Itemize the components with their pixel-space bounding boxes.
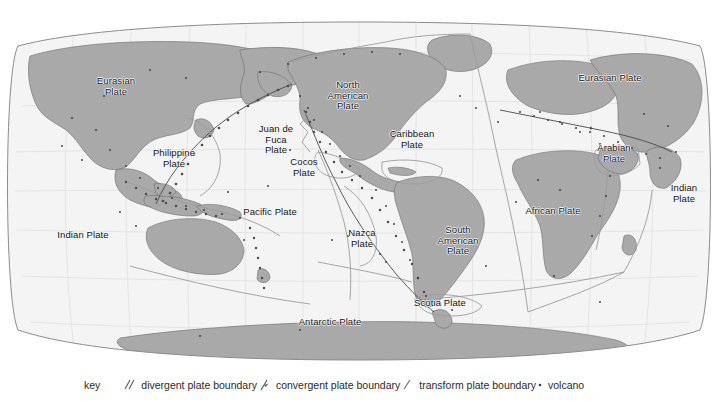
- volcano-icon: [536, 379, 545, 391]
- legend-key-label: key: [84, 379, 100, 391]
- transform-boundary-icon: [400, 379, 415, 391]
- legend-entry-convergent: convergent plate boundary: [257, 379, 400, 391]
- world-map: Eurasian PlatePhilippine PlateIndian Pla…: [0, 0, 718, 365]
- map-legend: key divergent plate boundary convergent …: [0, 366, 718, 403]
- legend-entry-transform: transform plate boundary: [400, 379, 536, 391]
- map-canvas: [0, 0, 718, 365]
- legend-label-volcano: volcano: [548, 379, 584, 391]
- divergent-boundary-icon: [122, 379, 137, 391]
- tectonic-plate-map-figure: Eurasian PlatePhilippine PlateIndian Pla…: [0, 0, 718, 403]
- legend-entry-volcano: volcano: [536, 379, 584, 391]
- legend-label-divergent: divergent plate boundary: [141, 379, 257, 391]
- legend-label-convergent: convergent plate boundary: [276, 379, 400, 391]
- legend-entry-divergent: divergent plate boundary: [122, 379, 257, 391]
- legend-label-transform: transform plate boundary: [419, 379, 536, 391]
- convergent-boundary-icon: [257, 379, 272, 391]
- ocean-body: [0, 0, 718, 365]
